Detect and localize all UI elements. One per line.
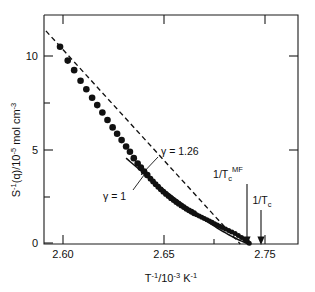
data-point <box>94 102 101 109</box>
tc-label: 1/Tc <box>253 194 272 209</box>
x-axis-title: T-1/10-3 K-1 <box>145 271 197 284</box>
data-point <box>99 109 106 116</box>
data-point <box>109 124 116 131</box>
tc-label-main: 1/T <box>253 194 269 206</box>
y-axis-title-sup2: -5 <box>9 148 18 155</box>
data-point <box>104 117 111 124</box>
data-point <box>83 86 90 93</box>
x-axis-title-tail: K <box>180 272 191 284</box>
y-axis-title-sup3: -3 <box>9 103 18 110</box>
tc-mf-label: 1/TcMF <box>213 165 243 183</box>
y-axis-title: S-1(q)/10-5 mol cm-3 <box>9 103 22 198</box>
annotation-gamma-1: γ = 1 <box>103 171 147 202</box>
y-axis-title-tail: mol cm <box>10 109 22 148</box>
y-tick-label-10: 10 <box>26 50 38 62</box>
tc-mf-label-sub: c <box>228 174 232 183</box>
data-point <box>64 57 71 64</box>
x-axis-title-sup1: -1 <box>152 271 159 280</box>
x-tick-label-265: 2.65 <box>153 248 174 260</box>
y-tick-labels: 10 5 0 <box>26 50 38 249</box>
figure-container: 10 5 0 2.60 2.65 2.75 T-1/10-3 K-1 S-1(q… <box>0 0 315 292</box>
annotation-tc: 1/Tc <box>253 194 272 245</box>
data-point <box>123 143 130 150</box>
gamma-1-leader-line <box>133 171 147 190</box>
data-point <box>77 77 84 84</box>
data-point <box>71 67 78 74</box>
tc-label-sub: c <box>268 200 272 209</box>
plot-frame <box>44 15 298 244</box>
y-tick-label-5: 5 <box>32 144 38 156</box>
y-axis-title-sup1: -1 <box>9 183 18 190</box>
data-point <box>127 148 134 155</box>
y-axis-title-main: S <box>10 190 22 197</box>
y-axis-title-mid: (q)/10 <box>10 155 22 184</box>
data-point <box>57 44 64 51</box>
svg-text:T-1/10-3 K-1: T-1/10-3 K-1 <box>145 271 197 284</box>
x-axis-ticks <box>63 15 265 244</box>
data-point <box>114 130 121 137</box>
x-tick-label-275: 2.75 <box>254 248 275 260</box>
x-tick-label-260: 2.60 <box>52 248 73 260</box>
tc-mf-label-main: 1/T <box>213 168 229 180</box>
tc-mf-label-sup: MF <box>232 165 243 174</box>
data-point <box>131 155 138 162</box>
gamma-1-label: γ = 1 <box>103 190 126 202</box>
data-point <box>118 137 125 144</box>
data-point-series <box>57 44 252 246</box>
scatter-plot: 10 5 0 2.60 2.65 2.75 T-1/10-3 K-1 S-1(q… <box>0 0 315 292</box>
x-axis-title-mid: /10 <box>158 272 173 284</box>
x-axis-title-sup2: -3 <box>173 271 180 280</box>
gamma-126-label: γ = 1.26 <box>161 145 199 157</box>
y-tick-label-0: 0 <box>32 237 38 249</box>
x-tick-labels: 2.60 2.65 2.75 <box>52 248 275 260</box>
data-point <box>89 94 96 101</box>
fit-lines <box>46 31 250 244</box>
svg-text:S-1(q)/10-5 mol cm-3: S-1(q)/10-5 mol cm-3 <box>9 103 22 198</box>
x-axis-title-sup3: -1 <box>191 271 198 280</box>
mean-field-fit-line <box>46 31 240 244</box>
annotation-gamma-126: γ = 1.26 <box>141 145 199 175</box>
